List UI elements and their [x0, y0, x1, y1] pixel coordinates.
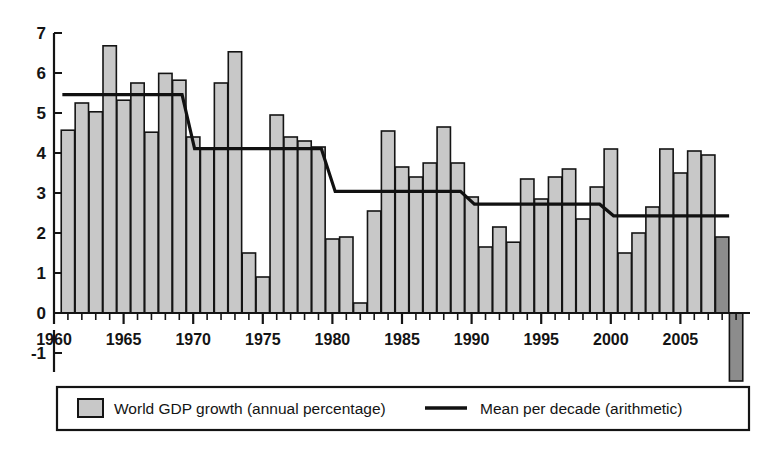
bar — [354, 303, 367, 313]
bar — [562, 169, 575, 313]
y-tick-label: 3 — [37, 184, 46, 203]
bar — [409, 177, 422, 313]
bar — [200, 149, 213, 313]
bar — [381, 131, 394, 313]
bar — [604, 149, 617, 313]
bar — [423, 163, 436, 313]
bar — [61, 130, 74, 313]
bar — [729, 313, 742, 381]
bar — [75, 103, 88, 313]
bar — [117, 100, 130, 313]
bar — [507, 242, 520, 313]
world-gdp-growth-chart: 76543210-1 19601965197019751980198519901… — [0, 0, 781, 458]
bar — [312, 147, 325, 313]
bar — [89, 112, 102, 313]
chart-figure: 76543210-1 19601965197019751980198519901… — [0, 0, 781, 458]
bar — [173, 80, 186, 313]
bar — [145, 132, 158, 313]
bar — [493, 227, 506, 313]
bar — [576, 219, 589, 313]
bar — [618, 253, 631, 313]
bar — [103, 46, 116, 313]
x-tick-label: 1960 — [36, 331, 72, 348]
bar — [187, 137, 200, 313]
x-tick-label: 2000 — [593, 331, 629, 348]
bar — [367, 211, 380, 313]
bar — [465, 197, 478, 313]
y-tick-label: 5 — [37, 104, 46, 123]
x-tick-label: 1970 — [175, 331, 211, 348]
bar — [214, 83, 227, 313]
y-tick-label: 4 — [37, 144, 47, 163]
bar — [632, 233, 645, 313]
bar — [395, 167, 408, 313]
legend-label-mean-per-decade: Mean per decade (arithmetic) — [480, 400, 682, 417]
bar — [521, 179, 534, 313]
x-tick-label: 1985 — [384, 331, 420, 348]
bar — [479, 247, 492, 313]
bar — [702, 155, 715, 313]
legend-label-gdp-growth: World GDP growth (annual percentage) — [114, 400, 386, 417]
x-tick-label: 1965 — [106, 331, 142, 348]
x-tick-label: 1980 — [315, 331, 351, 348]
bar — [159, 73, 172, 313]
bar — [535, 199, 548, 313]
x-tick-label: 1990 — [454, 331, 490, 348]
bar — [674, 173, 687, 313]
bar — [298, 141, 311, 313]
bar — [340, 237, 353, 313]
bar — [437, 127, 450, 313]
bar — [256, 277, 269, 313]
bar — [660, 149, 673, 313]
bar — [451, 163, 464, 313]
y-tick-label: 7 — [37, 24, 46, 43]
y-tick-label: 6 — [37, 64, 46, 83]
y-tick-label: 1 — [37, 264, 46, 283]
y-tick-label: 2 — [37, 224, 46, 243]
bar — [715, 237, 728, 313]
bar — [688, 151, 701, 313]
x-tick-label: 1975 — [245, 331, 281, 348]
bar — [548, 177, 561, 313]
bar — [270, 115, 283, 313]
legend-swatch-bar — [78, 399, 103, 417]
bar — [284, 137, 297, 313]
bar — [326, 239, 339, 313]
bar — [131, 83, 144, 313]
bar — [228, 52, 241, 313]
y-tick-label: 0 — [37, 304, 46, 323]
x-tick-label: 2005 — [663, 331, 699, 348]
bar — [242, 253, 255, 313]
bar — [646, 207, 659, 313]
x-tick-label: 1995 — [523, 331, 559, 348]
